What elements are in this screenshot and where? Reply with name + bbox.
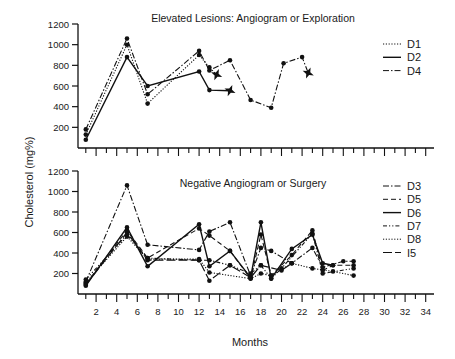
data-point [207, 270, 212, 275]
data-point [145, 92, 150, 97]
data-point [269, 273, 274, 278]
data-point [259, 220, 264, 225]
data-point [228, 263, 233, 268]
y-tick-label: 400 [53, 248, 69, 259]
data-point [207, 88, 212, 93]
data-point [228, 220, 233, 225]
data-point [331, 263, 336, 268]
series-line [86, 39, 308, 130]
data-point [351, 266, 356, 271]
data-point [84, 283, 89, 288]
y-tick-label: 200 [53, 122, 69, 133]
x-tick-label: 10 [173, 306, 184, 317]
legend-item-d8: D8 [383, 233, 421, 245]
data-point [145, 101, 150, 106]
data-point [310, 231, 315, 236]
x-tick-label: 4 [114, 306, 119, 317]
chart-figure: 20040060080010001200Elevated Lesions: An… [0, 0, 455, 359]
data-point [351, 273, 356, 278]
x-tick-label: 24 [317, 306, 328, 317]
data-point [341, 259, 346, 264]
legend-label: D1 [407, 38, 421, 50]
x-tick-label: 2 [93, 306, 98, 317]
data-point [197, 248, 202, 253]
legend-item-d7: D7 [383, 220, 421, 232]
series-line [86, 233, 292, 285]
y-tick-label: 200 [53, 268, 69, 279]
data-point [145, 258, 150, 263]
x-tick-label: 12 [194, 306, 205, 317]
data-point [125, 183, 130, 188]
panel-title: Negative Angiogram or Surgery [180, 177, 327, 189]
data-point [207, 233, 212, 238]
series-i5 [84, 230, 295, 287]
y-tick-label: 800 [53, 207, 69, 218]
x-tick-label: 32 [400, 306, 411, 317]
x-tick-label: 16 [235, 306, 246, 317]
data-point [259, 246, 264, 251]
data-point [331, 269, 336, 274]
data-point [351, 259, 356, 264]
data-point [290, 247, 295, 252]
top-panel: 20040060080010001200Elevated Lesions: An… [48, 12, 434, 156]
legend-label: D2 [407, 51, 421, 63]
data-point [207, 68, 212, 73]
data-point [197, 69, 202, 74]
legend-item-d6: D6 [383, 207, 421, 219]
series-line [86, 45, 217, 135]
data-point [207, 229, 212, 234]
data-point [197, 258, 202, 263]
y-tick-label: 600 [53, 81, 69, 92]
data-point [125, 230, 130, 235]
data-point [207, 278, 212, 283]
data-point [145, 84, 150, 89]
x-tick-label: 28 [359, 306, 370, 317]
legend-label: D3 [407, 180, 421, 192]
data-point [269, 105, 274, 110]
data-point [125, 55, 130, 60]
legend-label: D7 [407, 220, 421, 232]
x-tick-label: 20 [276, 306, 287, 317]
data-point [310, 246, 315, 251]
end-star-marker [303, 68, 314, 79]
y-tick-label: 800 [53, 60, 69, 71]
x-tick-label: 14 [214, 306, 225, 317]
data-point [125, 36, 130, 41]
legend-label: I5 [407, 247, 416, 259]
data-point [207, 258, 212, 263]
legend-item-d3: D3 [383, 180, 421, 192]
data-point [320, 271, 325, 276]
data-point [84, 127, 89, 132]
legend-label: D5 [407, 193, 421, 205]
legend-item-i5: I5 [383, 247, 416, 259]
data-point [259, 271, 264, 276]
y-tick-label: 1000 [48, 39, 69, 50]
x-tick-label: 22 [297, 306, 308, 317]
x-tick-label: 26 [338, 306, 349, 317]
legend-label: D8 [407, 233, 421, 245]
data-point [197, 49, 202, 54]
data-point [320, 261, 325, 266]
data-point [84, 137, 89, 142]
series-d2 [84, 55, 236, 142]
legend-item-d1: D1 [383, 38, 421, 50]
data-point [269, 249, 274, 254]
data-point [197, 222, 202, 227]
data-point [310, 266, 315, 271]
y-tick-label: 600 [53, 227, 69, 238]
data-point [248, 275, 253, 280]
data-point [125, 225, 130, 230]
data-point [259, 263, 264, 268]
data-point [290, 261, 295, 266]
legend-label: D6 [407, 207, 421, 219]
x-tick-label: 6 [135, 306, 140, 317]
y-tick-label: 1200 [48, 19, 69, 30]
data-point [207, 264, 212, 269]
x-tick-label: 18 [256, 306, 267, 317]
data-point [145, 243, 150, 248]
data-point [145, 264, 150, 269]
y-axis-label: Cholesterol (mg%) [23, 136, 35, 227]
x-tick-label: 34 [420, 306, 431, 317]
data-point [228, 58, 233, 63]
legend-label: D4 [407, 65, 421, 77]
